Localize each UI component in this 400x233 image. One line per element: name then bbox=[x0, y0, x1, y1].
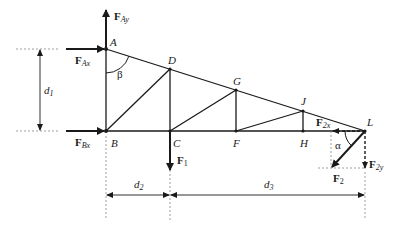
truss-diagram: d1 d2 d3 FAy FAx FBx F1 F2 F2x bbox=[0, 0, 400, 233]
force-FAx: FAx bbox=[66, 49, 104, 68]
label-L: L bbox=[366, 116, 373, 128]
joint-F bbox=[234, 129, 237, 132]
joint-B bbox=[104, 129, 108, 133]
label-B: B bbox=[111, 137, 118, 149]
member-FJ bbox=[236, 111, 303, 131]
svg-text:β: β bbox=[117, 68, 123, 80]
svg-text:α: α bbox=[335, 139, 341, 151]
label-H: H bbox=[299, 137, 309, 149]
label-D: D bbox=[167, 54, 176, 66]
joint-H bbox=[301, 129, 304, 132]
angle-beta: β bbox=[106, 56, 129, 80]
svg-text:F2y: F2y bbox=[369, 158, 384, 172]
force-F2y: F2y bbox=[365, 131, 384, 172]
joint-J bbox=[301, 109, 304, 112]
guide-lines bbox=[16, 49, 365, 220]
label-A: A bbox=[109, 36, 117, 48]
label-G: G bbox=[233, 75, 241, 87]
joint-G bbox=[234, 88, 237, 91]
force-FBx: FBx bbox=[66, 131, 104, 150]
svg-text:d1: d1 bbox=[44, 84, 54, 98]
svg-text:F2: F2 bbox=[333, 172, 344, 186]
dimension-d1: d1 bbox=[40, 50, 54, 130]
svg-text:FBx: FBx bbox=[75, 136, 91, 150]
label-J: J bbox=[301, 95, 307, 107]
dimension-d2: d2 bbox=[107, 178, 169, 195]
svg-text:FAy: FAy bbox=[114, 10, 129, 24]
member-BD bbox=[106, 69, 170, 131]
svg-text:d2: d2 bbox=[134, 178, 144, 192]
label-F: F bbox=[232, 137, 240, 149]
node-labels: A B C D F G H J L bbox=[109, 36, 373, 149]
svg-text:d3: d3 bbox=[264, 178, 274, 192]
svg-text:FAx: FAx bbox=[75, 54, 91, 68]
svg-text:F1: F1 bbox=[177, 154, 188, 168]
label-C: C bbox=[173, 137, 181, 149]
member-CG bbox=[170, 90, 236, 131]
joint-D bbox=[168, 67, 171, 70]
